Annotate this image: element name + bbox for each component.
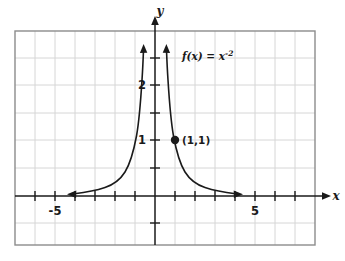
- y-tick-label-1: 1: [138, 133, 146, 147]
- function-label-exponent: -2: [225, 49, 233, 58]
- graph-figure: y x 1 2 -5 5 f(x) = x-2 (1,1): [0, 0, 345, 261]
- point-annotation-label: (1,1): [182, 134, 210, 146]
- y-tick-label-2: 2: [138, 78, 146, 92]
- x-axis-label: x: [331, 189, 340, 203]
- plotted-point-marker: [171, 136, 179, 144]
- x-tick-label-5: 5: [251, 204, 259, 218]
- y-axis-label: y: [156, 4, 165, 18]
- coordinate-plane-svg: y x 1 2 -5 5 f(x) = x-2 (1,1): [0, 0, 345, 261]
- x-tick-label-neg5: -5: [49, 204, 62, 218]
- function-label-text: f(x) = x: [181, 50, 226, 62]
